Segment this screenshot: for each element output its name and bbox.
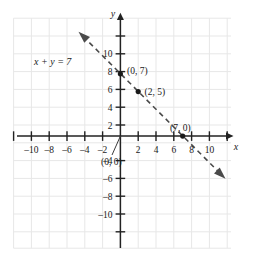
data-point-2-5: [136, 89, 141, 94]
y-axis-label: y: [110, 8, 116, 19]
y-tick-label--6: –6: [102, 174, 113, 184]
y-tick-label--10: –10: [97, 210, 113, 220]
x-axis-label: x: [233, 141, 239, 152]
y-tick-label-6: 6: [108, 85, 113, 95]
y-tick-label-2: 2: [108, 121, 113, 131]
y-tick-label-4: 4: [108, 103, 113, 113]
graph-canvas: –10 –8 –6 –4 –2 2 4 6 8 10 10 8 6 4 2 –4…: [0, 0, 256, 264]
equation-label: x + y = 7: [33, 56, 72, 67]
point-label-7-0: (7, 0): [170, 123, 191, 134]
coordinate-plane-figure: –10 –8 –6 –4 –2 2 4 6 8 10 10 8 6 4 2 –4…: [0, 0, 256, 264]
x-tick-label--10: –10: [23, 145, 39, 155]
data-point-7-0: [180, 134, 185, 139]
x-tick-label-8: 8: [189, 145, 194, 155]
y-tick-label--8: –8: [102, 192, 113, 202]
y-tick-label-8: 8: [108, 67, 113, 77]
point-label-origin: (0, 0): [101, 157, 122, 168]
data-point-0-7: [118, 71, 123, 76]
figure-background: [0, 0, 256, 264]
y-tick-label-10: 10: [103, 49, 113, 59]
x-tick-label-6: 6: [171, 145, 176, 155]
point-label-0-7: (0, 7): [127, 66, 148, 77]
x-tick-label-10: 10: [205, 145, 215, 155]
x-tick-label-4: 4: [154, 145, 159, 155]
point-label-2-5: (2, 5): [145, 87, 166, 98]
x-tick-label--4: –4: [79, 145, 90, 155]
x-tick-label--8: –8: [43, 145, 54, 155]
x-tick-label--2: –2: [97, 145, 108, 155]
x-tick-label--6: –6: [61, 145, 72, 155]
x-tick-label-2: 2: [136, 145, 141, 155]
